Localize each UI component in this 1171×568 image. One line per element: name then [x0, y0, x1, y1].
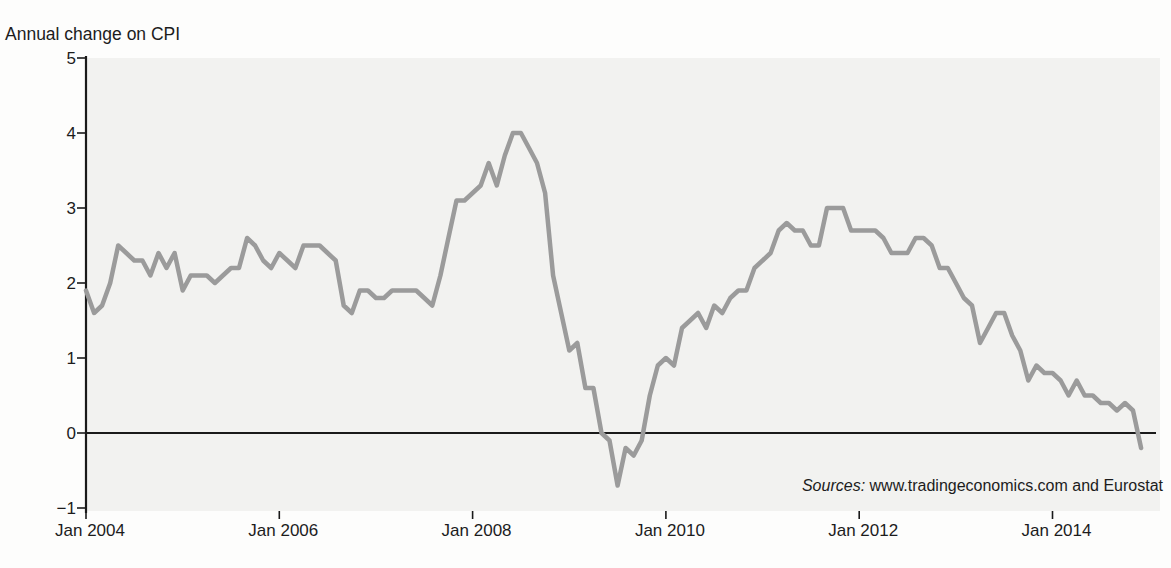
- source-note: Sources: www.tradingeconomics.com and Eu…: [802, 477, 1163, 495]
- x-tick-label: Jan 2004: [30, 521, 150, 541]
- y-tick-label: 0: [34, 425, 76, 442]
- chart-figure: Annual change on CPI 543210−1 Jan 2004Ja…: [0, 0, 1171, 568]
- y-tick-label: 5: [34, 50, 76, 67]
- x-tick-label: Jan 2014: [997, 521, 1117, 541]
- y-tick-label: 2: [34, 275, 76, 292]
- x-tick-label: Jan 2008: [417, 521, 537, 541]
- x-tick-label: Jan 2012: [803, 521, 923, 541]
- y-tick-label: 1: [34, 350, 76, 367]
- y-tick-label: 4: [34, 125, 76, 142]
- source-note-label: Sources:: [802, 477, 865, 494]
- x-tick-label: Jan 2010: [610, 521, 730, 541]
- y-tick-label: 3: [34, 200, 76, 217]
- x-tick-label: Jan 2006: [223, 521, 343, 541]
- source-note-text: www.tradingeconomics.com and Eurostat: [865, 477, 1163, 494]
- y-tick-label: −1: [34, 500, 76, 517]
